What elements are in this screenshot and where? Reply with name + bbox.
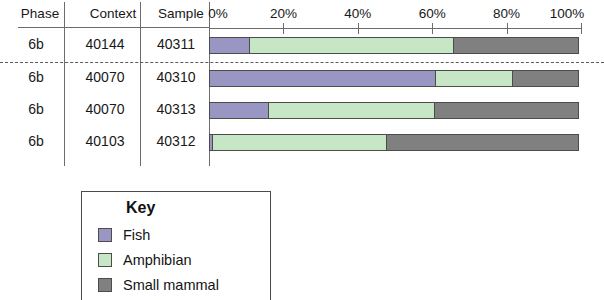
cell-context-row-3: 40070 (70, 101, 140, 117)
x-axis-label-100: 100% (550, 6, 585, 21)
cell-sample-row-3: 40313 (144, 101, 208, 117)
legend-label-small-mammal: Small mammal (123, 277, 219, 293)
x-axis-tick-60 (432, 23, 433, 34)
x-axis-tick-40 (358, 23, 359, 34)
bar-segment-fish (209, 70, 436, 87)
bar-segment-fish (209, 37, 250, 54)
cell-sample-row-4: 40312 (144, 133, 208, 149)
legend-swatch-small-mammal (98, 278, 112, 292)
legend-swatch-fish (98, 228, 112, 242)
x-axis-label-20: 20% (270, 6, 297, 21)
legend-title: Key (126, 199, 155, 217)
legend-item-small-mammal: Small mammal (98, 275, 219, 295)
stacked-bar-40313 (209, 102, 581, 119)
x-axis-label-60: 60% (419, 6, 446, 21)
cell-sample-row-2: 40310 (144, 69, 208, 85)
cell-sample-row-1: 40311 (144, 36, 208, 52)
x-axis-label-80: 80% (493, 6, 520, 21)
legend-item-amphibian: Amphibian (98, 250, 192, 270)
column-header-context: Context (78, 6, 148, 21)
legend-label-fish: Fish (123, 227, 150, 243)
bar-segment-amphibian (212, 134, 387, 151)
chart-figure: Phase Context Sample 0%20%40%60%80%100% … (0, 0, 604, 300)
x-axis-line (209, 28, 581, 29)
cell-context-row-1: 40144 (70, 36, 140, 52)
cell-context-row-4: 40103 (70, 133, 140, 149)
column-divider-2 (140, 2, 141, 166)
bar-segment-small-mammal (512, 70, 579, 87)
bar-segment-fish (209, 102, 269, 119)
cell-phase-row-4: 6b (8, 133, 64, 149)
x-axis-tick-20 (283, 23, 284, 34)
x-axis-tick-0 (209, 23, 210, 34)
legend-swatch-amphibian (98, 253, 112, 267)
stacked-bar-40311 (209, 37, 581, 54)
cell-phase-row-3: 6b (8, 101, 64, 117)
legend-box: Key FishAmphibianSmall mammal (81, 191, 271, 300)
bar-segment-small-mammal (453, 37, 579, 54)
column-header-sample: Sample (150, 6, 212, 21)
x-axis-label-0: 0% (208, 6, 228, 21)
cell-context-row-2: 40070 (70, 69, 140, 85)
bar-segment-amphibian (249, 37, 454, 54)
x-axis-label-40: 40% (344, 6, 371, 21)
legend-item-fish: Fish (98, 225, 150, 245)
stacked-bar-40312 (209, 134, 581, 151)
column-divider-1 (64, 2, 65, 166)
column-header-phase: Phase (8, 6, 72, 21)
legend-label-amphibian: Amphibian (123, 252, 192, 268)
bar-segment-amphibian (435, 70, 513, 87)
cell-phase-row-1: 6b (8, 36, 64, 52)
cell-phase-row-2: 6b (8, 69, 64, 85)
bar-segment-small-mammal (386, 134, 579, 151)
stacked-bar-40310 (209, 70, 581, 87)
header-underline (18, 27, 210, 28)
bar-segment-small-mammal (434, 102, 579, 119)
bar-segment-amphibian (268, 102, 435, 119)
row-separator-dashed (0, 62, 604, 63)
x-axis-tick-100 (581, 23, 582, 34)
x-axis-tick-80 (507, 23, 508, 34)
